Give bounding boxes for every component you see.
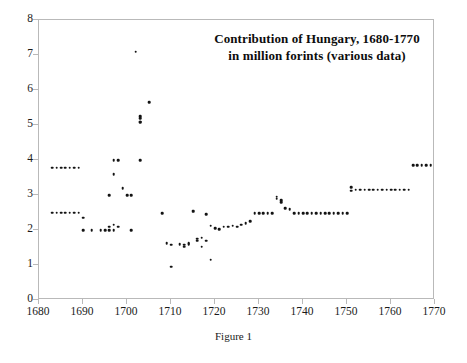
- x-tick-mark: [126, 299, 127, 304]
- data-point: [60, 211, 63, 214]
- data-point: [73, 166, 76, 169]
- data-point: [350, 186, 353, 189]
- data-point: [209, 258, 212, 261]
- y-tick-mark: [33, 124, 38, 125]
- data-point: [280, 201, 283, 204]
- data-point: [372, 188, 375, 191]
- x-tick-mark: [170, 299, 171, 304]
- data-point: [135, 50, 138, 53]
- x-tick-label: 1700: [115, 306, 138, 318]
- data-point: [55, 166, 58, 169]
- data-point: [55, 211, 58, 214]
- y-tick-mark: [33, 89, 38, 90]
- y-tick-label: 1: [7, 258, 33, 270]
- data-point: [205, 213, 208, 216]
- data-point: [385, 188, 388, 191]
- chart-title-line-1: Contribution of Hungary, 1680-1770: [183, 30, 451, 47]
- data-point: [64, 211, 67, 214]
- y-tick-mark: [33, 264, 38, 265]
- data-point: [51, 166, 54, 169]
- data-point: [91, 229, 94, 232]
- data-point: [245, 222, 248, 225]
- data-point: [236, 225, 239, 228]
- x-tick-label: 1710: [159, 306, 182, 318]
- data-point: [297, 212, 300, 215]
- data-point: [60, 166, 63, 169]
- data-point: [416, 164, 419, 167]
- data-point: [394, 188, 397, 191]
- data-point: [113, 159, 116, 162]
- y-tick-mark: [33, 159, 38, 160]
- data-point: [381, 188, 384, 191]
- data-point: [117, 225, 120, 228]
- data-point: [390, 188, 393, 191]
- data-point: [267, 212, 270, 215]
- data-point: [289, 208, 292, 211]
- y-tick-label: 3: [7, 188, 33, 200]
- data-point: [148, 101, 151, 104]
- data-point: [139, 117, 142, 120]
- data-point: [359, 188, 362, 191]
- data-point: [104, 229, 107, 232]
- data-point: [311, 212, 314, 215]
- figure-caption: Figure 1: [0, 330, 467, 342]
- data-point: [429, 164, 432, 167]
- data-point: [412, 164, 415, 167]
- x-tick-label: 1760: [379, 306, 402, 318]
- data-point: [196, 237, 199, 240]
- data-point: [179, 243, 182, 246]
- x-tick-mark: [214, 299, 215, 304]
- data-point: [108, 225, 111, 228]
- data-point: [368, 188, 371, 191]
- y-tick-mark: [33, 229, 38, 230]
- y-tick-label: 0: [7, 293, 33, 305]
- data-point: [99, 229, 102, 232]
- data-point: [192, 211, 195, 214]
- y-tick-mark: [33, 54, 38, 55]
- x-tick-label: 1730: [247, 306, 270, 318]
- y-tick-mark: [33, 19, 38, 20]
- data-point: [328, 212, 331, 215]
- data-point: [108, 194, 111, 197]
- data-point: [121, 187, 124, 190]
- figure-1-scatter-chart: 012345678 168016901700171017201730174017…: [0, 0, 467, 363]
- data-point: [324, 212, 327, 215]
- x-tick-label: 1720: [203, 306, 226, 318]
- data-point: [253, 212, 256, 215]
- y-tick-mark: [33, 194, 38, 195]
- data-point: [77, 166, 80, 169]
- data-point: [161, 212, 164, 215]
- chart-title: Contribution of Hungary, 1680-1770 in mi…: [183, 30, 451, 64]
- y-tick-label: 6: [7, 83, 33, 95]
- data-point: [302, 212, 305, 215]
- chart-title-line-2: in million forints (various data): [183, 47, 451, 64]
- data-point: [187, 242, 190, 245]
- data-point: [113, 173, 116, 176]
- x-tick-mark: [258, 299, 259, 304]
- data-point: [315, 212, 318, 215]
- data-point: [275, 197, 278, 200]
- data-point: [333, 212, 336, 215]
- data-point: [350, 190, 353, 193]
- data-point: [337, 212, 340, 215]
- y-tick-label: 4: [7, 153, 33, 165]
- data-point: [284, 207, 287, 210]
- data-point: [249, 220, 252, 223]
- x-tick-label: 1770: [423, 306, 446, 318]
- data-point: [271, 212, 274, 215]
- data-point: [64, 166, 67, 169]
- data-point: [126, 194, 129, 197]
- x-tick-mark: [390, 299, 391, 304]
- data-point: [69, 211, 72, 214]
- data-point: [214, 227, 217, 230]
- y-tick-label: 2: [7, 223, 33, 235]
- data-point: [306, 212, 309, 215]
- data-point: [425, 164, 428, 167]
- data-point: [407, 188, 410, 191]
- x-tick-mark: [346, 299, 347, 304]
- data-point: [183, 246, 186, 249]
- data-point: [293, 212, 296, 215]
- x-tick-label: 1680: [27, 306, 50, 318]
- data-point: [346, 212, 349, 215]
- data-point: [258, 212, 261, 215]
